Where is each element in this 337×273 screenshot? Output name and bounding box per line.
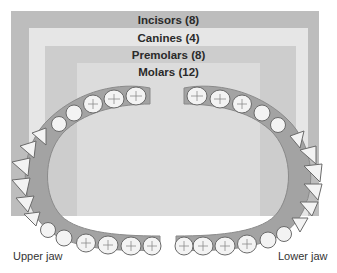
tooth-premolar [260, 232, 276, 248]
tooth-premolar [254, 105, 270, 121]
label-premolars: Premolars (8) [0, 48, 337, 62]
band-molars [77, 63, 260, 216]
label-lower-jaw: Lower jaw [278, 250, 328, 262]
tooth-premolar [41, 223, 56, 238]
label-upper-jaw: Upper jaw [13, 250, 63, 262]
tooth-premolar [66, 105, 82, 121]
tooth-canine [24, 212, 40, 226]
tooth-premolar [52, 117, 67, 132]
label-incisors: Incisors (8) [0, 13, 337, 27]
teeth-diagram: Incisors (8) Canines (4) Premolars (8) M… [0, 0, 337, 273]
tooth-premolar [277, 227, 292, 242]
label-molars: Molars (12) [0, 65, 337, 79]
label-canines: Canines (4) [0, 31, 337, 45]
tooth-premolar [271, 118, 286, 133]
tooth-premolar [56, 230, 72, 246]
tooth-canine [292, 218, 308, 232]
